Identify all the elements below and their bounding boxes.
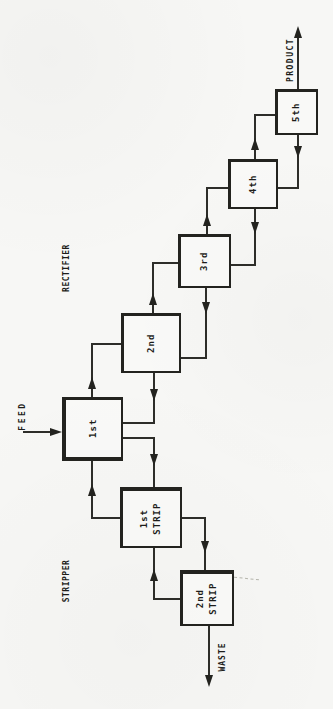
stage-box-1st-strip: 1st STRIP [120, 487, 182, 548]
vapor-arrowhead-1st-to-2nd-icon [88, 377, 96, 389]
vapor-line-2nd-to-3rd [152, 262, 154, 315]
liquid-arrowhead-1st-to-1st-strip-icon [150, 454, 158, 466]
liquid-arrowhead-4th-to-3rd-icon [251, 222, 259, 234]
section-label-rectifier: RECTIFIER [62, 244, 71, 292]
vapor-line-1st-to-2nd-elbow [91, 343, 123, 345]
stage-box-2nd: 2nd [121, 313, 181, 373]
stage-box-2nd-label: 2nd [145, 334, 158, 353]
stage-box-1st: 1st [62, 397, 123, 461]
vapor-line-4th-to-5th-elbow [254, 114, 277, 116]
waste-label: WASTE [218, 642, 227, 671]
vapor-line-2nd-strip-to-1st-strip-elbow [153, 598, 182, 600]
vapor-line-1st-strip-to-1st-elbow [91, 517, 122, 519]
vapor-arrowhead-3rd-to-4th-icon [203, 214, 211, 226]
vapor-arrowhead-1st-strip-to-1st-icon [88, 484, 96, 496]
product-arrowhead-icon [294, 26, 302, 38]
vapor-arrowhead-4th-to-5th-icon [251, 138, 259, 150]
scanned-flow-diagram: RECTIFIER STRIPPER FEED PRODUCT WASTE [0, 0, 333, 709]
liquid-arrowhead-5th-to-4th-icon [294, 146, 302, 158]
liquid-arrowhead-2nd-to-1st-icon [150, 389, 158, 401]
stage-box-4th: 4th [228, 159, 278, 209]
vapor-arrowhead-2nd-strip-to-1st-strip-icon [150, 569, 158, 581]
stage-box-1st-label: 1st [87, 419, 100, 438]
feed-line [23, 431, 52, 433]
scan-artifact-dashed-mark [234, 577, 259, 581]
waste-arrowhead-icon [205, 675, 213, 687]
liquid-arrowhead-1st-strip-to-2nd-strip-icon [201, 541, 209, 553]
vapor-line-2nd-to-3rd-elbow [152, 262, 180, 264]
liquid-arrowhead-3rd-to-2nd-icon [202, 302, 210, 314]
stage-box-3rd: 3rd [178, 234, 231, 288]
liquid-line-5th-to-4th-elbow [276, 187, 299, 189]
vapor-line-3rd-to-4th [206, 187, 208, 236]
vapor-line-3rd-to-4th-elbow [206, 187, 230, 189]
liquid-line-2nd-to-1st-elbow [122, 422, 155, 424]
stage-box-3rd-label: 3rd [199, 252, 212, 271]
liquid-line-3rd-to-2nd [205, 287, 207, 359]
liquid-line-4th-to-3rd [254, 208, 256, 266]
section-label-stripper: STRIPPER [62, 560, 71, 603]
stage-box-5th: 5th [275, 89, 318, 135]
vapor-arrowhead-2nd-to-3rd-icon [149, 293, 157, 305]
liquid-line-3rd-to-2nd-elbow [179, 357, 207, 359]
liquid-line-1st-to-1st-strip-elbow [121, 437, 155, 439]
stage-box-1st-strip-label: 1st STRIP [139, 502, 164, 534]
liquid-line-1st-strip-to-2nd-strip-elbow [180, 517, 206, 519]
product-label: PRODUCT [286, 38, 295, 82]
liquid-line-4th-to-3rd-elbow [229, 264, 256, 266]
waste-line [208, 624, 210, 677]
stage-box-2nd-strip: 2nd STRIP [180, 570, 234, 626]
product-line [297, 37, 299, 90]
stage-box-4th-label: 4th [247, 175, 260, 194]
feed-label: FEED [18, 401, 27, 430]
feed-arrowhead-icon [50, 428, 62, 436]
liquid-line-5th-to-4th [297, 134, 299, 189]
vapor-line-1st-to-2nd [91, 343, 93, 398]
stage-box-2nd-strip-label: 2nd STRIP [195, 583, 220, 615]
stage-box-5th-label: 5th [291, 103, 304, 122]
